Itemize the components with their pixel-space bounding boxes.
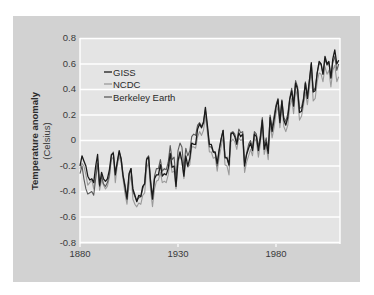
x-tick-label: 1980 bbox=[265, 248, 286, 259]
y-tick-label: -0.2 bbox=[60, 160, 76, 171]
x-tick-label: 1930 bbox=[167, 248, 188, 259]
legend-label-berkeley: Berkeley Earth bbox=[113, 92, 175, 103]
y-axis-ticks: 0.8 0.6 0.4 0.2 0 -0.2 -0.4 -0.6 -0.8 bbox=[60, 32, 76, 248]
y-axis-title-text: Temperature anomaly bbox=[29, 91, 40, 190]
y-tick-label: 0.8 bbox=[63, 32, 76, 43]
y-tick-label: -0.4 bbox=[60, 185, 76, 196]
legend-label-giss: GISS bbox=[113, 67, 136, 78]
y-axis-unit: (Celsius) bbox=[41, 122, 52, 159]
y-tick-label: -0.6 bbox=[60, 211, 76, 222]
y-tick-label: 0.6 bbox=[63, 58, 76, 69]
y-tick-label: 0 bbox=[71, 134, 76, 145]
y-tick-label: 0.2 bbox=[63, 109, 76, 120]
y-tick-label: -0.8 bbox=[60, 237, 76, 248]
x-axis-ticks: 1880 1930 1980 bbox=[69, 248, 286, 259]
y-tick-label: 0.4 bbox=[63, 83, 76, 94]
y-axis-title: Temperature anomaly (Celsius) bbox=[29, 91, 52, 190]
legend-label-ncdc: NCDC bbox=[113, 79, 141, 90]
x-tick-label: 1880 bbox=[69, 248, 90, 259]
chart: 0.8 0.6 0.4 0.2 0 -0.2 -0.4 -0.6 -0.8 18… bbox=[0, 0, 374, 295]
